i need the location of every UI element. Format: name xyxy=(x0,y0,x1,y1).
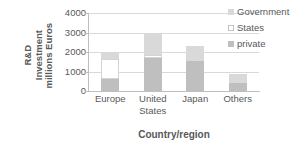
bar-segment-government xyxy=(229,74,247,83)
legend-label-states: States xyxy=(237,23,264,33)
bar-united-states[interactable] xyxy=(144,34,162,92)
bar-others[interactable] xyxy=(229,74,247,91)
x-axis-tick-label: United States xyxy=(132,93,175,116)
legend-label-government: Government xyxy=(237,7,289,17)
y-axis-tick-label: 2000 xyxy=(65,47,86,57)
legend-item-private[interactable]: private xyxy=(228,37,266,51)
government-swatch-icon xyxy=(228,9,234,15)
bar-europe[interactable] xyxy=(101,53,119,91)
y-axis-tick-mark xyxy=(85,33,89,34)
rnd-investment-stacked-bar-chart: R&D Investment millions Euros 4000 3000 … xyxy=(0,0,307,152)
x-axis-title: Country/region xyxy=(89,130,259,140)
private-swatch-icon xyxy=(228,41,234,47)
y-axis-tick-label: 4000 xyxy=(65,8,86,18)
legend-item-government[interactable]: Government xyxy=(228,5,289,19)
bar-segment-government xyxy=(186,46,204,61)
bar-segment-government xyxy=(144,34,162,55)
legend-label-private: private xyxy=(237,39,266,49)
y-axis-title-line-2: Investment xyxy=(34,30,44,80)
bar-segment-private xyxy=(186,61,204,91)
bar-segment-private xyxy=(101,79,119,91)
y-axis-tick-mark xyxy=(85,52,89,53)
y-axis-title: R&D Investment millions Euros xyxy=(2,8,54,103)
y-axis-tick-mark xyxy=(85,13,89,14)
y-axis-tick-mark xyxy=(85,72,89,73)
bar-segment-private xyxy=(229,83,247,91)
y-axis-title-line-1: R&D xyxy=(23,45,33,66)
x-axis-tick-label: Europe xyxy=(89,93,132,105)
bar-segment-states xyxy=(101,59,119,79)
x-axis-tick-label: Others xyxy=(217,93,260,105)
y-axis-tick-label: 3000 xyxy=(65,28,86,38)
y-axis-tick-mark xyxy=(85,91,89,92)
legend-item-states[interactable]: States xyxy=(228,21,264,35)
states-swatch-icon xyxy=(228,25,234,31)
legend: Government States private xyxy=(228,3,307,49)
bar-segment-private xyxy=(144,58,162,91)
bar-japan[interactable] xyxy=(186,46,204,91)
y-axis-title-line-3: millions Euros xyxy=(44,23,54,88)
y-axis-tick-label: 1000 xyxy=(65,67,86,77)
x-axis-line xyxy=(88,91,260,92)
y-axis-tick-labels: 4000 3000 2000 1000 0 xyxy=(54,0,86,152)
x-axis-tick-label: Japan xyxy=(174,93,217,105)
x-axis-tick-labels: EuropeUnited StatesJapanOthers xyxy=(89,93,259,127)
